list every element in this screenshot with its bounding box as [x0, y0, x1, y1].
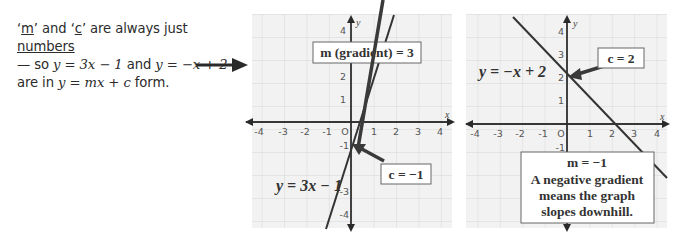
note-text: slopes downhill. — [541, 204, 633, 219]
y-tick: -4 — [340, 209, 349, 220]
graph-2-x-label: x — [659, 111, 665, 122]
x-tick: -4 — [470, 128, 479, 139]
x-tick: -1 — [322, 126, 331, 137]
graphs-canvas: x y -4 -3 -2 -1 O 1 2 3 4 4 2 1 -1 -3 -4… — [0, 0, 682, 233]
x-tick: 2 — [609, 128, 615, 139]
x-tick: -3 — [278, 126, 287, 137]
x-tick: 2 — [393, 126, 399, 137]
x-tick: -1 — [538, 128, 547, 139]
graph-1: x y -4 -3 -2 -1 O 1 2 3 4 4 2 1 -1 -3 -4… — [246, 0, 453, 230]
origin-label: O — [341, 126, 348, 137]
x-tick: 1 — [371, 126, 377, 137]
y-tick: 2 — [558, 72, 564, 83]
origin-label: O — [557, 128, 564, 139]
x-tick: 3 — [415, 126, 421, 137]
graph-1-y-label: y — [355, 17, 361, 28]
pointer-arrow-icon — [196, 58, 248, 72]
y-tick: 4 — [340, 25, 346, 36]
x-tick: 3 — [631, 128, 637, 139]
graph-1-equation: y = 3x − 1 — [274, 177, 342, 195]
x-tick: 1 — [587, 128, 593, 139]
x-tick: 4 — [654, 128, 660, 139]
x-tick: -3 — [493, 128, 502, 139]
gradient-label: m (gradient) = 3 — [320, 45, 414, 60]
note-gradient-value: m = −1 — [567, 155, 607, 170]
graph-1-x-label: x — [444, 109, 450, 120]
x-tick: -4 — [254, 126, 263, 137]
x-tick: -2 — [300, 126, 309, 137]
graph-2-y-label: y — [572, 18, 578, 29]
y-tick: -1 — [340, 140, 349, 151]
intercept-label: c = 2 — [607, 51, 634, 66]
note-text: means the graph — [539, 188, 635, 203]
y-tick: 3 — [558, 49, 564, 60]
y-tick: 1 — [340, 94, 346, 105]
x-tick: 4 — [437, 126, 443, 137]
x-tick: -2 — [515, 128, 524, 139]
note-text: A negative gradient — [531, 172, 644, 187]
intercept-label: c = −1 — [389, 167, 424, 182]
y-tick: -1 — [556, 142, 565, 153]
y-tick: 4 — [558, 26, 564, 37]
graph-2: x y -4 -3 -2 -1 O 1 2 3 4 4 3 2 1 -1 c =… — [466, 14, 668, 230]
y-tick: 2 — [340, 71, 346, 82]
graph-2-equation: y = −x + 2 — [477, 63, 546, 81]
y-tick: 1 — [558, 95, 564, 106]
